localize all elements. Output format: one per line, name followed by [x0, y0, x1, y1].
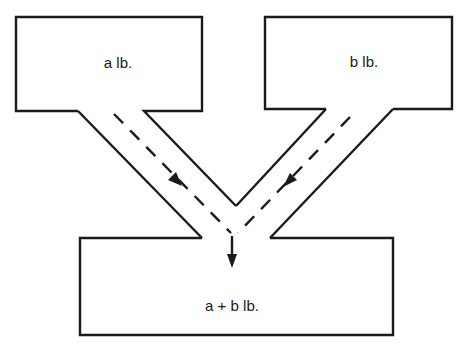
- flow-line-b: [238, 117, 350, 233]
- input-b-label: b lb.: [350, 53, 378, 70]
- input-a-vessel: [16, 17, 236, 206]
- mixing-diagram: [0, 0, 467, 345]
- output-label: a + b lb.: [205, 297, 259, 314]
- output-vessel: [80, 238, 393, 335]
- arrow-a-icon: [168, 172, 182, 186]
- input-a-channel-wall: [78, 111, 202, 238]
- input-a-label: a lb.: [104, 54, 132, 71]
- arrow-output-icon: [227, 254, 237, 268]
- input-b-channel-outer-wall: [270, 109, 393, 238]
- flow-line-a: [114, 114, 231, 233]
